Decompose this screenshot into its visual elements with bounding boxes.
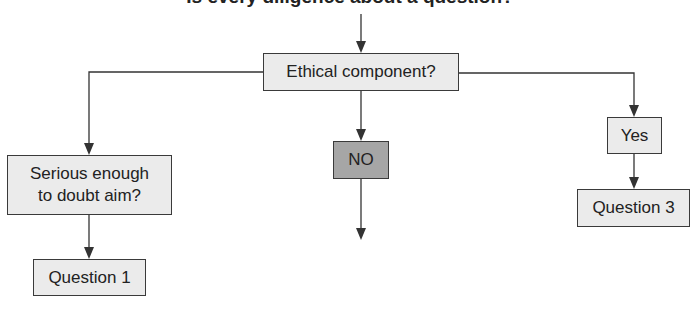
ethical-component-node: Ethical component? bbox=[263, 53, 459, 91]
question-1-label: Question 1 bbox=[48, 267, 130, 289]
serious-enough-label-line1: Serious enough bbox=[30, 163, 149, 185]
ethical-component-label: Ethical component? bbox=[286, 61, 435, 83]
no-node: NO bbox=[333, 141, 389, 179]
yes-label: Yes bbox=[621, 125, 649, 147]
question-3-label: Question 3 bbox=[592, 197, 674, 219]
question-1-node: Question 1 bbox=[33, 259, 146, 296]
yes-node: Yes bbox=[607, 117, 662, 154]
serious-enough-node: Serious enough to doubt aim? bbox=[7, 155, 172, 215]
serious-enough-label-line2: to doubt aim? bbox=[38, 185, 141, 207]
question-3-node: Question 3 bbox=[577, 189, 690, 227]
no-label: NO bbox=[348, 149, 374, 171]
